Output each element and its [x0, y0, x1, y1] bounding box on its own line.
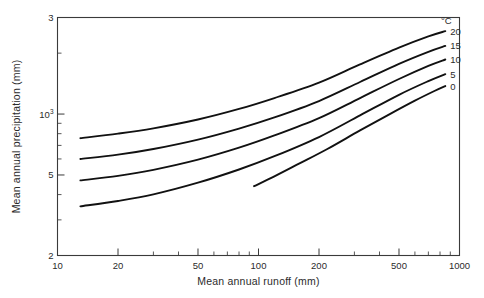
x-tick-label: 20 [113, 260, 124, 271]
x-tick-label: 200 [311, 260, 327, 271]
x-tick-label: 500 [391, 260, 407, 271]
legend-label-20c: 20 [450, 26, 461, 37]
y-tick-label: 3 [48, 12, 53, 23]
x-axis-ticks [58, 249, 460, 256]
x-tick-label: 1000 [449, 260, 470, 271]
y-axis-title: Mean annual precipitation (mm) [10, 60, 22, 214]
chart-canvas: 1020501002005001000 251033 °C20151050 Me… [0, 0, 484, 298]
chart-background [0, 0, 484, 298]
legend-unit-label: °C [441, 15, 452, 26]
legend-label-5c: 5 [450, 69, 455, 80]
x-tick-label: 10 [52, 260, 63, 271]
y-tick-label: 2 [48, 250, 53, 261]
legend-label-0c: 0 [450, 81, 455, 92]
chart-figure: 1020501002005001000 251033 °C20151050 Me… [0, 0, 484, 298]
legend-label-10c: 10 [450, 54, 461, 65]
x-axis-title: Mean annual runoff (mm) [197, 275, 319, 287]
legend-label-15c: 15 [450, 40, 461, 51]
x-tick-label: 100 [251, 260, 267, 271]
y-tick-label: 5 [48, 169, 53, 180]
x-tick-label: 50 [193, 260, 204, 271]
